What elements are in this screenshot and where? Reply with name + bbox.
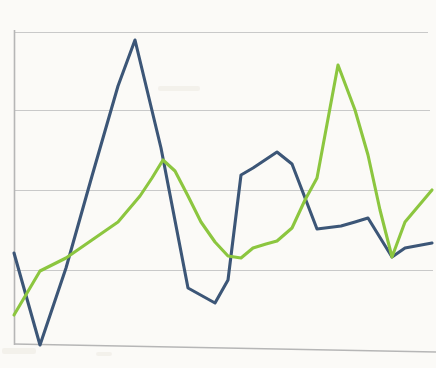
chart-background — [0, 0, 436, 368]
chart-canvas — [0, 0, 436, 368]
line-chart-figure — [0, 0, 436, 368]
